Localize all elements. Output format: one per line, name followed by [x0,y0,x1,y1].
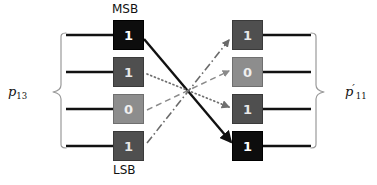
left-bit-box-row-4[interactable]: 1 [113,131,144,161]
left-stub-wires [66,35,114,146]
left-bit-box-row-1[interactable]: 1 [113,20,144,50]
left-bit-value-row-4: 1 [124,140,133,153]
right-bit-value-row-2: 0 [243,66,252,79]
right-bit-value-row-4: 1 [243,140,252,153]
left-bit-value-row-2: 1 [124,66,133,79]
right-group-label: p′11 [345,84,367,99]
wiring-layer [0,0,377,185]
left-group-subscript: 13 [16,91,27,101]
right-group-prime: ′ [352,82,355,95]
lsb-label: LSB [113,163,136,177]
left-bit-value-row-3: 0 [124,103,133,116]
left-bit-box-row-3[interactable]: 0 [113,94,144,124]
right-bit-box-row-1[interactable]: 1 [232,20,263,50]
left-group-label: p13 [8,84,27,99]
right-stub-wires [262,35,311,146]
right-bit-box-row-2[interactable]: 0 [232,57,263,87]
msb-label: MSB [112,2,138,16]
right-bit-box-row-4[interactable]: 1 [232,131,263,161]
right-group-brace [311,33,324,148]
right-bit-value-row-3: 1 [243,103,252,116]
left-group-brace [53,33,66,148]
right-bit-box-row-3[interactable]: 1 [232,94,263,124]
left-bit-box-row-2[interactable]: 1 [113,57,144,87]
left-bit-value-row-1: 1 [124,29,133,42]
right-group-subscript: 11 [356,91,367,101]
right-bit-value-row-1: 1 [243,29,252,42]
bit-permutation-diagram: 1 1 0 1 1 0 1 1 MSB LSB p13 p′11 [0,0,377,185]
